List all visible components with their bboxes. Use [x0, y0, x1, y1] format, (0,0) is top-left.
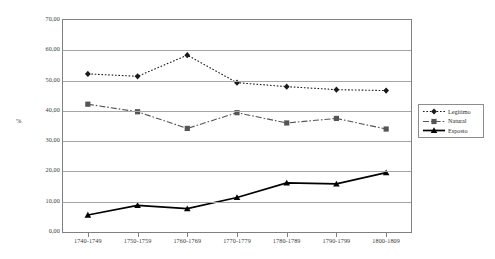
legend-item: Legitimo	[422, 107, 481, 117]
gridline	[63, 81, 411, 82]
data-point-marker	[85, 102, 90, 107]
data-point-marker	[135, 73, 141, 79]
legend-swatch-natural	[422, 117, 446, 126]
data-point-marker	[184, 52, 190, 58]
x-axis-tick-mark	[287, 233, 288, 237]
data-point-marker	[284, 84, 290, 90]
y-axis-tick-label: 30,00	[20, 137, 60, 143]
y-axis-tick-label: 60,00	[20, 46, 60, 52]
legend-item: Esposto	[422, 126, 481, 136]
legend-item: Natural	[422, 117, 481, 127]
data-point-marker	[431, 109, 437, 115]
x-axis-tick-mark	[88, 233, 89, 237]
x-axis-tick-labels: 1740-17491750-17591760-17691770-17791780…	[62, 238, 412, 252]
gridline	[63, 50, 411, 51]
data-point-marker	[284, 120, 289, 125]
y-axis-tick-labels: 0,0010,0020,0030,0040,0050,0060,0070,00	[16, 19, 60, 233]
legend-swatch-legitimo	[422, 107, 446, 116]
legend-label: Natural	[448, 118, 467, 124]
data-point-marker	[384, 126, 389, 131]
series-line	[88, 173, 386, 215]
y-axis-tick-label: 40,00	[20, 107, 60, 113]
x-axis-tick-mark	[336, 233, 337, 237]
y-axis-tick-label: 70,00	[20, 16, 60, 22]
x-axis-tick-mark	[237, 233, 238, 237]
data-point-marker	[334, 116, 339, 121]
x-axis-tick-mark	[138, 233, 139, 237]
x-axis-tick-label: 1800-1809	[356, 238, 416, 244]
data-point-marker	[431, 119, 436, 124]
series-legitimo	[85, 52, 389, 94]
data-point-marker	[185, 126, 190, 131]
gridline	[63, 141, 411, 142]
x-axis-tick-mark	[386, 233, 387, 237]
data-point-marker	[383, 87, 389, 93]
y-axis-title: %	[16, 117, 21, 124]
data-point-marker	[85, 71, 91, 77]
series-line	[88, 104, 386, 129]
y-axis-tick-label: 10,00	[20, 198, 60, 204]
legend-label: Legitimo	[448, 109, 471, 115]
series-natural	[85, 102, 388, 132]
y-axis-tick-label: 50,00	[20, 77, 60, 83]
y-axis-tick-label: 20,00	[20, 167, 60, 173]
plot-area	[62, 19, 412, 233]
gridline	[63, 171, 411, 172]
series-esposto	[85, 169, 390, 217]
gridline	[63, 202, 411, 203]
gridline	[63, 111, 411, 112]
y-axis-tick-label: 0,00	[20, 228, 60, 234]
legend-swatch-esposto	[422, 126, 446, 135]
legend-label: Esposto	[448, 128, 468, 134]
data-point-marker	[334, 87, 340, 93]
series-layer	[63, 20, 411, 232]
x-axis-tick-mark	[187, 233, 188, 237]
chart-screenshot: 0,0010,0020,0030,0040,0050,0060,0070,00 …	[0, 0, 495, 259]
legend: LegitimoNaturalEsposto	[418, 104, 484, 138]
